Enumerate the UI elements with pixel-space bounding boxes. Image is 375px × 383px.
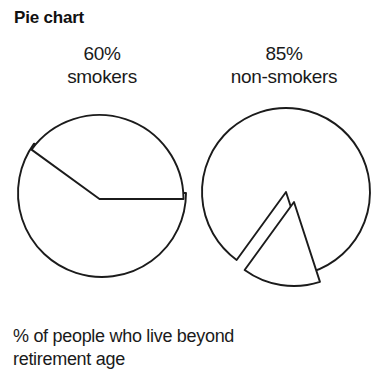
pie-chart-non-smokers	[202, 108, 370, 286]
pie-label-smokers-name: smokers	[24, 65, 180, 88]
pie-label-non-smokers-name: non-smokers	[196, 65, 372, 88]
pie-slice-40pct	[32, 115, 184, 199]
pie-label-non-smokers: 85% non-smokers	[196, 42, 372, 88]
figure-title: Pie chart	[14, 8, 84, 28]
pie-label-non-smokers-percent: 85%	[196, 42, 372, 65]
pie-chart-smokers	[18, 115, 186, 277]
pie-slice-85pct	[202, 108, 370, 272]
figure-caption: % of people who live beyond retirement a…	[13, 325, 363, 371]
pie-slice-15pct	[245, 202, 320, 286]
pie-chart-figure: Pie chart 60% smokers 85% non-smokers % …	[0, 0, 375, 383]
figure-caption-line-2: retirement age	[13, 348, 363, 371]
pie-label-smokers-percent: 60%	[24, 42, 180, 65]
pie-slice-60pct	[18, 144, 186, 277]
pie-label-smokers: 60% smokers	[24, 42, 180, 88]
figure-caption-line-1: % of people who live beyond	[13, 325, 363, 348]
